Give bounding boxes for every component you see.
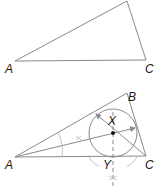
incenter-point <box>111 131 115 135</box>
label-bottom-B: B <box>128 90 136 104</box>
label-bottom-C: C <box>145 158 154 172</box>
label-Y: Y <box>103 158 112 172</box>
construction-mark-A <box>76 136 81 140</box>
label-X: X <box>107 114 117 128</box>
bisector-A <box>15 128 135 157</box>
triangle-top-outline <box>15 1 146 61</box>
triangle-bottom-outline <box>15 93 146 157</box>
diagram-canvas: A C B X Y A C <box>0 0 159 189</box>
triangle-bottom: B X Y A C <box>4 90 154 189</box>
bisector-C <box>96 114 146 156</box>
triangle-top: A C <box>4 1 154 76</box>
label-bottom-A: A <box>4 158 13 172</box>
label-top-A: A <box>4 62 13 76</box>
label-top-C: C <box>145 62 154 76</box>
construction-arc-Y-right <box>127 155 138 166</box>
construction-arc-A <box>58 132 63 157</box>
